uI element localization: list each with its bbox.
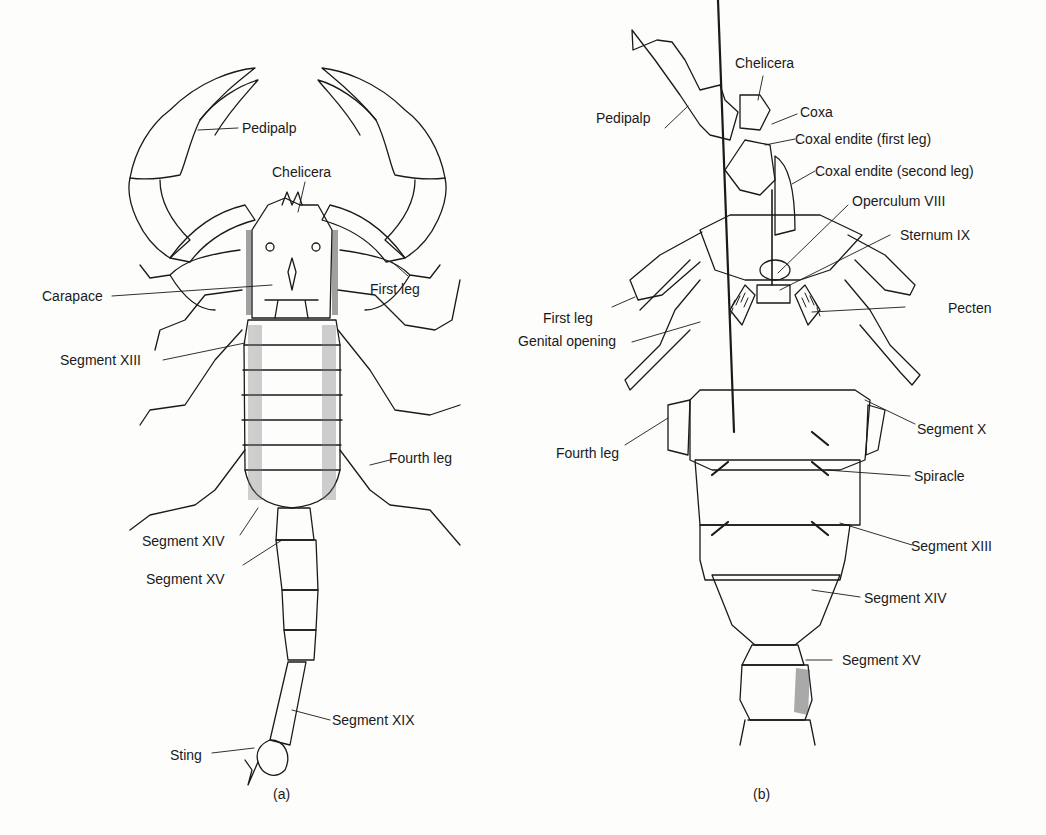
scorpion-illustrations [0, 0, 1046, 835]
label-segment-x-b: Segment X [917, 421, 986, 437]
label-chelicera-b: Chelicera [735, 55, 794, 71]
label-fourth-leg-b: Fourth leg [556, 445, 619, 461]
label-fourth-leg-a: Fourth leg [389, 450, 452, 466]
label-segment-xiii-b: Segment XIII [911, 538, 992, 554]
label-first-leg-a: First leg [370, 281, 420, 297]
label-coxal-endite-second-b: Coxal endite (second leg) [815, 163, 974, 179]
label-chelicera-a: Chelicera [272, 164, 331, 180]
caption-a: (a) [273, 786, 290, 802]
label-coxal-endite-first-b: Coxal endite (first leg) [795, 131, 931, 147]
label-pecten-b: Pecten [948, 300, 992, 316]
caption-b: (b) [753, 786, 770, 802]
label-genital-opening-b: Genital opening [518, 333, 616, 349]
label-segment-xv-b: Segment XV [842, 652, 921, 668]
label-segment-xix-a: Segment XIX [332, 712, 415, 728]
label-sternum-ix-b: Sternum IX [900, 227, 970, 243]
label-pedipalp-b: Pedipalp [596, 110, 651, 126]
scorpion-anatomy-figure: Pedipalp Chelicera Carapace First leg Se… [0, 0, 1046, 835]
label-segment-xv-a: Segment XV [146, 571, 225, 587]
label-spiracle-b: Spiracle [914, 468, 965, 484]
label-segment-xiii-a: Segment XIII [60, 352, 141, 368]
label-sting-a: Sting [170, 747, 202, 763]
label-first-leg-b: First leg [543, 310, 593, 326]
label-carapace-a: Carapace [42, 288, 103, 304]
label-segment-xiv-b: Segment XIV [864, 590, 947, 606]
label-coxa-b: Coxa [800, 104, 833, 120]
ventral-scorpion-drawing [625, 0, 920, 745]
label-pedipalp-a: Pedipalp [242, 120, 297, 136]
label-operculum-viii-b: Operculum VIII [852, 193, 945, 209]
label-segment-xiv-a: Segment XIV [142, 533, 225, 549]
